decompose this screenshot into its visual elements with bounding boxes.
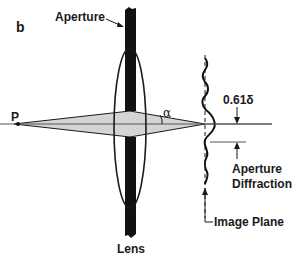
- arrow-down-icon: [234, 107, 240, 124]
- angle-label: α: [163, 106, 171, 120]
- diffraction-label-line2: Diffraction: [232, 177, 292, 191]
- diffraction-label-line1: Aperture: [232, 162, 282, 176]
- lens-label: Lens: [117, 242, 145, 256]
- aperture-label: Aperture: [55, 10, 105, 24]
- aperture-pointer-arrow: [106, 19, 124, 27]
- panel-label: b: [16, 19, 25, 35]
- image-plane-label: Image Plane: [214, 215, 284, 229]
- image-plane-pointer: [202, 188, 213, 222]
- diffraction-diagram: b Aperture P α Lens 0.61δ Aperture Diffr…: [0, 0, 299, 257]
- point-label: P: [11, 110, 19, 124]
- arrow-up-icon: [234, 142, 240, 159]
- diffraction-profile: [202, 58, 214, 184]
- resolution-label: 0.61δ: [223, 93, 254, 107]
